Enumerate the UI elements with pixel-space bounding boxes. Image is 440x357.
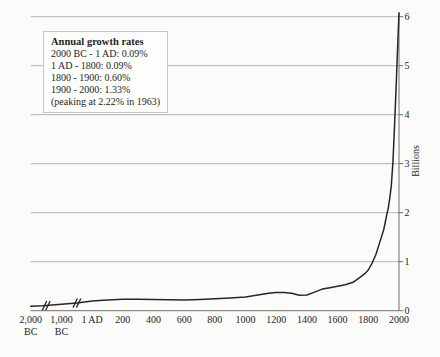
legend-line: 1 AD - 1800: 0.09% bbox=[51, 60, 160, 72]
world-population-chart: Annual growth rates 2000 BC - 1 AD: 0.09… bbox=[0, 0, 440, 357]
legend-box: Annual growth rates 2000 BC - 1 AD: 0.09… bbox=[43, 31, 168, 113]
x-tick-label-text: 800 bbox=[207, 314, 222, 325]
x-tick-label-text: 200 bbox=[115, 314, 130, 325]
x-tick-label-era: BC bbox=[39, 326, 83, 338]
y-axis-title: Billions bbox=[410, 131, 422, 191]
y-tick-label: 6 bbox=[405, 12, 410, 22]
x-tick-label-text: 400 bbox=[146, 314, 161, 325]
y-tick-label: 4 bbox=[405, 110, 410, 120]
legend-line: 1900 - 2000: 1.33% bbox=[51, 84, 160, 96]
x-tick-label-text: 1600 bbox=[328, 314, 348, 325]
x-tick-label-text: 1000 bbox=[236, 314, 256, 325]
legend-line: 1800 - 1900: 0.60% bbox=[51, 72, 160, 84]
y-tick-label: 3 bbox=[405, 159, 410, 169]
x-tick-label-text: 600 bbox=[177, 314, 192, 325]
legend-line: 2000 BC - 1 AD: 0.09% bbox=[51, 48, 160, 60]
y-tick-label: 2 bbox=[405, 208, 410, 218]
legend-title: Annual growth rates bbox=[51, 36, 160, 48]
y-tick-label: 1 bbox=[405, 257, 410, 267]
x-tick-label-text: 1200 bbox=[266, 314, 286, 325]
x-tick-label-text: 1800 bbox=[358, 314, 378, 325]
y-tick-label: 0 bbox=[405, 306, 410, 316]
y-tick-label: 5 bbox=[405, 61, 410, 71]
x-tick-label-text: 1 AD bbox=[81, 314, 102, 325]
legend-lines: 2000 BC - 1 AD: 0.09%1 AD - 1800: 0.09%1… bbox=[51, 48, 160, 107]
legend-line: (peaking at 2.22% in 1963) bbox=[51, 96, 160, 108]
x-tick-label: 2000 bbox=[377, 314, 421, 326]
x-tick-label-text: 1400 bbox=[297, 314, 317, 325]
